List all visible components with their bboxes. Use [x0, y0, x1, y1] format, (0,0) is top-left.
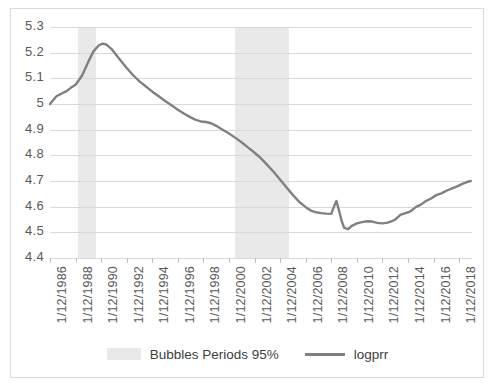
x-axis-tick-mark [178, 258, 179, 263]
gridline [50, 155, 472, 156]
x-axis-tick-mark [382, 258, 383, 263]
y-axis-tick-label: 4.8 [4, 146, 44, 161]
x-axis-tick-mark [434, 258, 435, 263]
bubble-period-band-2 [235, 27, 289, 258]
chart-legend: Bubbles Periods 95% logprr [0, 340, 495, 368]
x-axis-tick-label: 1/12/1990 [106, 266, 120, 323]
legend-label-logprr: logprr [354, 347, 389, 362]
x-axis-tick-mark [280, 258, 281, 263]
x-axis-tick-mark [408, 258, 409, 263]
gridline [50, 207, 472, 208]
x-axis-tick-label: 1/12/2004 [285, 266, 299, 323]
x-axis-tick-label: 1/12/2016 [439, 266, 453, 323]
x-axis-tick-label: 1/12/1996 [183, 266, 197, 323]
x-axis-tick-label: 1/12/2006 [311, 266, 325, 323]
x-axis-tick-mark [203, 258, 204, 263]
x-axis-tick-label: 1/12/2008 [336, 266, 350, 323]
y-axis-tick-label: 4.5 [4, 223, 44, 238]
legend-swatch-icon [107, 348, 141, 360]
y-axis-tick-label: 4.4 [4, 249, 44, 264]
bubble-period-band-1 [78, 27, 96, 258]
x-axis-tick-label: 1/12/1998 [208, 266, 222, 323]
y-axis-tick-label: 4.7 [4, 172, 44, 187]
x-axis-tick-mark [50, 258, 51, 263]
x-axis-tick-mark [76, 258, 77, 263]
gridline [50, 130, 472, 131]
x-axis-tick-mark [357, 258, 358, 263]
x-axis-tick-mark [331, 258, 332, 263]
y-axis-tick-label: 5.2 [4, 44, 44, 59]
legend-label-bubbles: Bubbles Periods 95% [150, 347, 279, 362]
x-axis-tick-label: 1/12/1988 [81, 266, 95, 323]
y-axis-tick-label: 4.6 [4, 198, 44, 213]
legend-item-logprr[interactable]: logprr [305, 347, 389, 362]
x-axis-tick-mark [101, 258, 102, 263]
legend-line-icon [305, 353, 345, 356]
x-axis-tick-label: 1/12/1986 [55, 266, 69, 323]
x-axis-tick-mark [229, 258, 230, 263]
x-axis-tick-label: 1/12/2010 [362, 266, 376, 323]
chart-plot-wrapper: 5.35.25.154.94.84.74.64.54.4 1/12/19861/… [0, 0, 495, 391]
x-axis-tick-mark [255, 258, 256, 263]
plot-area [50, 27, 472, 258]
gridline [50, 181, 472, 182]
gridline [50, 78, 472, 79]
x-axis-tick-label: 1/12/1994 [157, 266, 171, 323]
gridline [50, 27, 472, 28]
gridline [50, 232, 472, 233]
x-axis-tick-label: 1/12/2014 [413, 266, 427, 323]
y-axis: 5.35.25.154.94.84.74.64.54.4 [0, 0, 44, 391]
x-axis-tick-label: 1/12/2002 [260, 266, 274, 323]
x-axis-tick-label: 1/12/2012 [387, 266, 401, 323]
y-axis-tick-label: 5.3 [4, 18, 44, 33]
x-axis-tick-mark [459, 258, 460, 263]
y-axis-tick-label: 4.9 [4, 121, 44, 136]
gridline [50, 53, 472, 54]
x-axis-tick-mark [127, 258, 128, 263]
x-axis-tick-label: 1/12/2018 [464, 266, 478, 323]
legend-item-bubbles[interactable]: Bubbles Periods 95% [107, 347, 279, 362]
y-axis-tick-label: 5.1 [4, 69, 44, 84]
x-axis-tick-mark [306, 258, 307, 263]
x-axis-tick-label: 1/12/2000 [234, 266, 248, 323]
y-axis-tick-label: 5 [4, 95, 44, 110]
gridline [50, 104, 472, 105]
x-axis-tick-label: 1/12/1992 [132, 266, 146, 323]
x-axis-tick-mark [152, 258, 153, 263]
